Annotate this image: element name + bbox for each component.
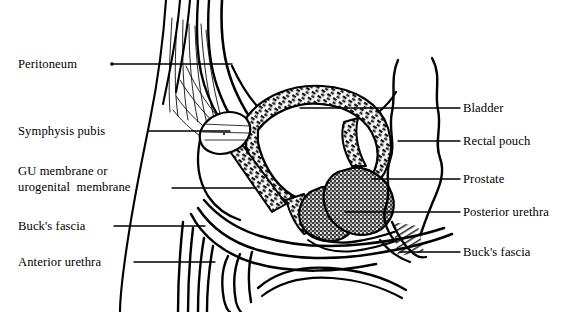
label-bladder: Bladder <box>463 101 504 116</box>
label-bucks-fascia-left: Buck's fascia <box>18 219 86 234</box>
label-prostate: Prostate <box>463 172 504 187</box>
label-anterior-urethra: Anterior urethra <box>18 255 101 270</box>
leader-dot-peritoneum <box>110 62 114 66</box>
label-gu-membrane-line1: GU membrane or <box>18 164 108 179</box>
label-bucks-fascia-right: Buck's fascia <box>463 245 531 260</box>
label-symphysis-pubis: Symphysis pubis <box>18 124 105 139</box>
anatomical-diagram-figure: Peritoneum Symphysis pubis GU membrane o… <box>0 0 585 312</box>
label-rectal-pouch: Rectal pouch <box>463 134 530 149</box>
label-posterior-urethra: Posterior urethra <box>463 205 549 220</box>
label-gu-membrane-line2: urogenital membrane <box>18 180 131 195</box>
perineal-curve-inner <box>262 278 402 298</box>
label-peritoneum: Peritoneum <box>18 57 77 72</box>
